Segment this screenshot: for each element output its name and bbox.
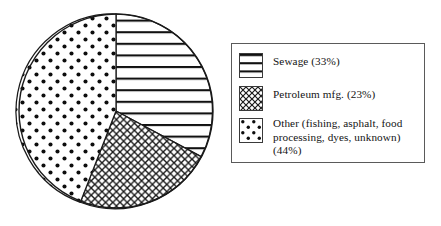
dots-swatch [239, 118, 263, 143]
cross-hatch-swatch [239, 86, 263, 111]
pie-svg [12, 8, 224, 218]
dots-swatch-svg [240, 119, 262, 142]
legend-label-other-line2: processing, dyes, unknown) (44%) [273, 131, 423, 158]
legend-label-other-line1: Other (fishing, asphalt, food [273, 117, 423, 131]
legend-label-petroleum: Petroleum mfg. (23%) [273, 85, 375, 102]
legend-item-petroleum: Petroleum mfg. (23%) [239, 85, 375, 111]
horizontal-lines-swatch [239, 53, 263, 78]
chart-legend: Sewage (33%) Petroleum mfg. (23%) Other … [231, 43, 425, 163]
legend-item-other: Other (fishing, asphalt, food processing… [239, 117, 423, 158]
legend-label-other: Other (fishing, asphalt, food processing… [273, 117, 423, 158]
legend-item-sewage: Sewage (33%) [239, 52, 340, 78]
legend-label-sewage: Sewage (33%) [273, 52, 340, 69]
cross-hatch-swatch-svg [240, 87, 262, 110]
horizontal-lines-swatch-svg [240, 54, 262, 77]
pie-chart-graphic [12, 8, 224, 218]
pie-chart-figure: Sewage (33%) Petroleum mfg. (23%) Other … [0, 0, 441, 226]
